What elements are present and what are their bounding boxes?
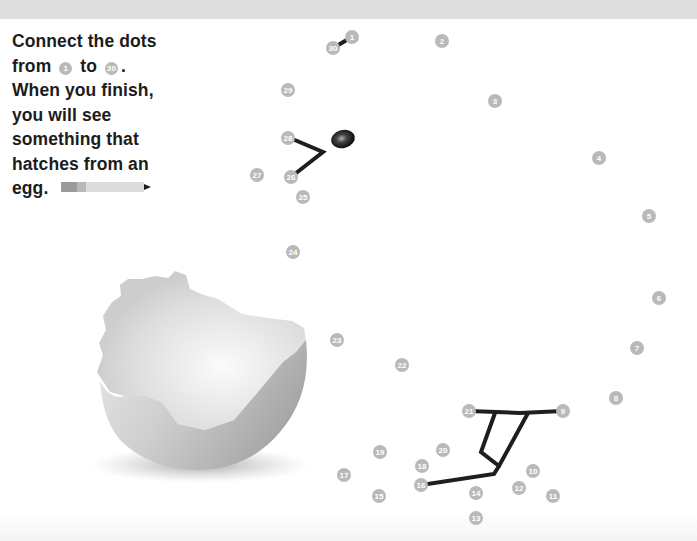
drawn-lines	[290, 38, 563, 485]
dot-number: 24	[289, 248, 298, 257]
dot-3[interactable]: 3	[488, 94, 502, 108]
dot-number: 15	[375, 492, 384, 501]
dot-number: 4	[597, 154, 602, 163]
dot-1[interactable]: 1	[345, 30, 359, 44]
dot-number: 10	[529, 467, 538, 476]
dot-6[interactable]: 6	[652, 291, 666, 305]
dot-28[interactable]: 28	[281, 131, 295, 145]
dot-13[interactable]: 13	[469, 511, 483, 525]
dot-number: 1	[350, 33, 355, 42]
dot-20[interactable]: 20	[436, 443, 450, 457]
dot-5[interactable]: 5	[642, 209, 656, 223]
dot-4[interactable]: 4	[592, 151, 606, 165]
dot-number: 14	[472, 489, 481, 498]
dot-15[interactable]: 15	[372, 489, 386, 503]
dot-11[interactable]: 11	[546, 489, 560, 503]
dot-number: 18	[418, 462, 427, 471]
dot-number: 21	[465, 407, 474, 416]
dot-10[interactable]: 10	[526, 464, 540, 478]
dot-17[interactable]: 17	[337, 468, 351, 482]
dot-number: 13	[472, 514, 481, 523]
dot-2[interactable]: 2	[435, 34, 449, 48]
dot-number: 20	[439, 446, 448, 455]
dot-number: 11	[549, 492, 558, 501]
dot-number: 16	[417, 481, 426, 490]
dot-16[interactable]: 16	[414, 478, 428, 492]
dot-21[interactable]: 21	[462, 404, 476, 418]
cracked-eggshell-illustration	[90, 271, 310, 483]
dot-number: 27	[253, 171, 262, 180]
beak-line	[290, 138, 323, 177]
dot-25[interactable]: 25	[296, 190, 310, 204]
dot-29[interactable]: 29	[281, 83, 295, 97]
leg-front-line	[481, 413, 499, 466]
dot-number: 23	[333, 336, 342, 345]
dot-8[interactable]: 8	[609, 391, 623, 405]
dots-layer: 1234567891011121314151617181920212223242…	[250, 30, 666, 525]
dot-number: 19	[376, 448, 385, 457]
dot-number: 7	[635, 344, 640, 353]
dot-22[interactable]: 22	[395, 358, 409, 372]
dot-number: 12	[515, 484, 524, 493]
dot-number: 26	[287, 173, 296, 182]
dot-7[interactable]: 7	[630, 341, 644, 355]
dot-24[interactable]: 24	[286, 245, 300, 259]
dot-number: 28	[284, 134, 293, 143]
dot-number: 30	[329, 44, 338, 53]
dot-number: 9	[561, 407, 566, 416]
dot-number: 6	[657, 294, 662, 303]
dot-number: 25	[299, 193, 308, 202]
dot-26[interactable]: 26	[284, 170, 298, 184]
dot-number: 22	[398, 361, 407, 370]
foot-top-line	[469, 411, 563, 413]
dot-canvas[interactable]: 1234567891011121314151617181920212223242…	[0, 0, 697, 541]
dot-number: 29	[284, 86, 293, 95]
dot-23[interactable]: 23	[330, 333, 344, 347]
dot-number: 8	[614, 394, 619, 403]
dot-18[interactable]: 18	[415, 459, 429, 473]
dot-number: 5	[647, 212, 652, 221]
dot-14[interactable]: 14	[469, 486, 483, 500]
dot-number: 2	[440, 37, 445, 46]
dot-12[interactable]: 12	[512, 481, 526, 495]
chick-eye	[329, 127, 357, 151]
dot-27[interactable]: 27	[250, 168, 264, 182]
dot-number: 17	[340, 471, 349, 480]
dot-9[interactable]: 9	[556, 404, 570, 418]
dot-30[interactable]: 30	[326, 41, 340, 55]
dot-19[interactable]: 19	[373, 445, 387, 459]
dot-number: 3	[493, 97, 498, 106]
